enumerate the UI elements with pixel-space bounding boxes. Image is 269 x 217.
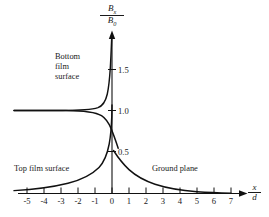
x-tick-label-5: 5 — [191, 196, 203, 206]
x-tick-label--2: -2 — [70, 196, 86, 206]
y-tick-label-1-5: 1.5 — [118, 65, 129, 75]
plot-canvas — [0, 0, 269, 217]
x-tick-label--1: -1 — [87, 196, 103, 206]
annotation-bottom-film-surface-line2: film — [55, 62, 69, 71]
x-tick-label-3: 3 — [157, 196, 169, 206]
x-axis-arrowhead — [239, 190, 248, 196]
x-tick-label--5: -5 — [19, 196, 35, 206]
annotation-ground-plane: Ground plane — [152, 164, 198, 174]
x-tick-label-2: 2 — [140, 196, 152, 206]
x-tick-label-7: 7 — [225, 196, 237, 206]
y-axis-title-denominator: B0 — [100, 15, 124, 27]
annotation-bottom-film-surface-line3: surface — [55, 72, 79, 81]
x-axis-title-denominator: d — [248, 192, 261, 202]
x-tick-label--3: -3 — [53, 196, 69, 206]
annotation-bottom-film-surface: Bottom film surface — [55, 52, 80, 82]
curve-top-film-surface-lower — [14, 105, 112, 191]
y-tick-label-1-0: 1.0 — [118, 106, 129, 116]
annotation-top-film-surface: Top film surface — [14, 164, 69, 174]
x-tick-label-0: 0 — [106, 196, 118, 206]
x-axis-title: x d — [248, 183, 261, 203]
annotation-bottom-film-surface-line1: Bottom — [55, 52, 80, 61]
x-tick-label-1: 1 — [123, 196, 135, 206]
y-tick-label-0-5: 0.5 — [118, 147, 129, 157]
curve-top-film-surface-upper — [14, 110, 118, 148]
x-tick-label-4: 4 — [174, 196, 186, 206]
x-axis-title-numerator: x — [248, 183, 261, 192]
x-tick-label-6: 6 — [208, 196, 220, 206]
y-axis-title-numerator: Bx — [100, 4, 124, 15]
y-axis-title: Bx B0 — [100, 4, 124, 28]
x-tick-label--4: -4 — [36, 196, 52, 206]
figure-container: Bx B0 x d 1.5 1.0 0.5 -5 -4 -3 -2 -1 0 1… — [0, 0, 269, 217]
